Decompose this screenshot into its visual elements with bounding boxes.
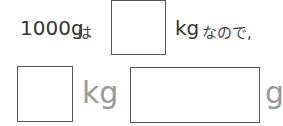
answer-box-kg[interactable] — [111, 0, 166, 55]
grams-value: 1000g — [20, 16, 84, 40]
unit-kg-gray: kg — [82, 75, 118, 110]
answer-box-kg-2[interactable] — [17, 66, 73, 122]
unit-g-gray: g — [265, 75, 283, 110]
answer-box-g[interactable] — [130, 67, 260, 123]
suffix-nanode: なので, — [202, 21, 252, 42]
particle-wa: は — [77, 21, 92, 42]
unit-kg: kg — [175, 16, 199, 40]
